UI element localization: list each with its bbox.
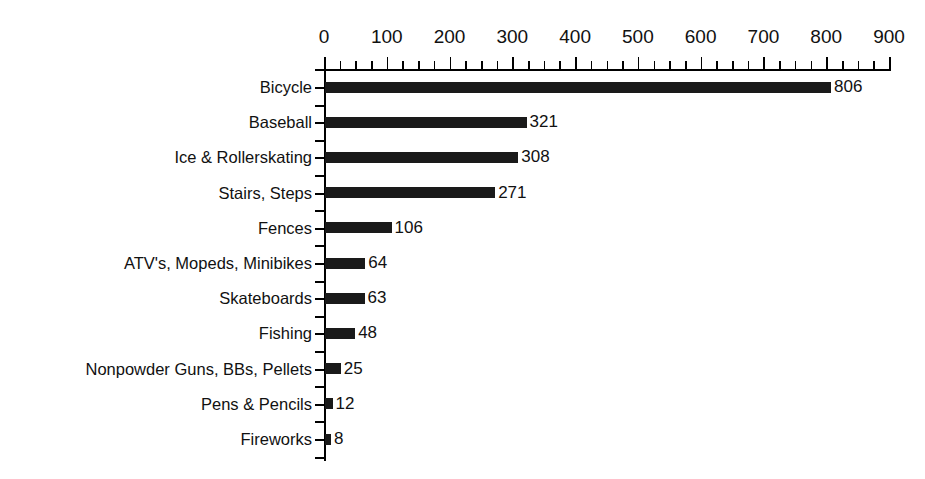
x-axis-minor-tick xyxy=(811,61,813,69)
category-label: Baseball xyxy=(249,113,312,131)
y-axis-minor-tick xyxy=(315,457,324,459)
y-axis-minor-tick xyxy=(315,351,324,353)
category-label: Ice & Rollerskating xyxy=(174,148,312,166)
x-axis-tick-label: 400 xyxy=(559,26,591,48)
category-label: Fences xyxy=(258,219,312,237)
x-axis-major-tick xyxy=(638,57,640,69)
x-axis-tick-label: 700 xyxy=(748,26,780,48)
y-axis-tick xyxy=(315,87,324,89)
y-axis-tick xyxy=(315,333,324,335)
bar xyxy=(325,258,365,269)
y-axis-minor-tick xyxy=(315,281,324,283)
y-axis-minor-tick xyxy=(315,175,324,177)
x-axis-tick-label: 900 xyxy=(873,26,905,48)
x-axis-minor-tick xyxy=(434,61,436,69)
x-axis-minor-tick xyxy=(732,61,734,69)
x-axis-minor-tick xyxy=(607,61,609,69)
y-axis-minor-tick xyxy=(315,105,324,107)
x-axis-minor-tick xyxy=(465,61,467,69)
x-axis-minor-tick xyxy=(418,61,420,69)
x-axis-minor-tick xyxy=(481,61,483,69)
x-axis-major-tick xyxy=(575,57,577,69)
x-axis-tick-label: 600 xyxy=(685,26,717,48)
category-label: Stairs, Steps xyxy=(218,184,312,202)
y-axis-tick xyxy=(315,157,324,159)
x-axis-line xyxy=(324,69,891,71)
x-axis-minor-tick xyxy=(716,61,718,69)
bar xyxy=(325,328,355,339)
y-axis-tick xyxy=(315,404,324,406)
category-label: Pens & Pencils xyxy=(201,395,312,413)
bar xyxy=(325,398,333,409)
bar-value-label: 8 xyxy=(334,430,343,448)
category-label: Fishing xyxy=(259,324,312,342)
bar-chart: 0100200300400500600700800900 Bicycle806B… xyxy=(0,0,925,479)
y-axis-minor-tick xyxy=(315,69,324,71)
x-axis-major-tick xyxy=(826,57,828,69)
x-axis-tick-label: 500 xyxy=(622,26,654,48)
y-axis-tick xyxy=(315,298,324,300)
y-axis-minor-tick xyxy=(315,210,324,212)
x-axis-minor-tick xyxy=(355,61,357,69)
y-axis-minor-tick xyxy=(315,140,324,142)
x-axis-minor-tick xyxy=(842,61,844,69)
y-axis-minor-tick xyxy=(315,386,324,388)
bar-value-label: 308 xyxy=(521,148,549,166)
bar xyxy=(325,434,331,445)
category-label: Fireworks xyxy=(240,430,312,448)
x-axis-minor-tick xyxy=(340,61,342,69)
x-axis-minor-tick xyxy=(669,61,671,69)
x-axis-major-tick xyxy=(324,57,326,69)
x-axis-major-tick xyxy=(889,57,891,69)
x-axis-minor-tick xyxy=(528,61,530,69)
y-axis-minor-tick xyxy=(315,421,324,423)
bar-value-label: 806 xyxy=(834,78,862,96)
x-axis-tick-label: 100 xyxy=(371,26,403,48)
bar-value-label: 12 xyxy=(336,395,355,413)
bar xyxy=(325,222,392,233)
x-axis-tick-label: 800 xyxy=(810,26,842,48)
bar-value-label: 106 xyxy=(395,219,423,237)
bar xyxy=(325,82,831,93)
bar-value-label: 48 xyxy=(358,324,377,342)
y-axis-tick xyxy=(315,193,324,195)
y-axis-tick xyxy=(315,122,324,124)
bar xyxy=(325,187,495,198)
x-axis-minor-tick xyxy=(795,61,797,69)
bar xyxy=(325,117,527,128)
x-axis-minor-tick xyxy=(654,61,656,69)
x-axis-tick-label: 300 xyxy=(496,26,528,48)
x-axis-minor-tick xyxy=(497,61,499,69)
category-label: ATV's, Mopeds, Minibikes xyxy=(124,254,312,272)
x-axis-minor-tick xyxy=(622,61,624,69)
x-axis-minor-tick xyxy=(591,61,593,69)
bar-value-label: 271 xyxy=(498,184,526,202)
bar xyxy=(325,293,365,304)
category-label: Nonpowder Guns, BBs, Pellets xyxy=(85,360,312,378)
y-axis-tick xyxy=(315,369,324,371)
x-axis-tick-label: 200 xyxy=(434,26,466,48)
x-axis-minor-tick xyxy=(748,61,750,69)
y-axis-minor-tick xyxy=(315,245,324,247)
x-axis-minor-tick xyxy=(858,61,860,69)
x-axis-major-tick xyxy=(450,57,452,69)
x-axis-minor-tick xyxy=(873,61,875,69)
bar xyxy=(325,152,518,163)
x-axis-minor-tick xyxy=(402,61,404,69)
x-axis-major-tick xyxy=(387,57,389,69)
x-axis-major-tick xyxy=(701,57,703,69)
bar-value-label: 25 xyxy=(344,360,363,378)
y-axis-tick xyxy=(315,263,324,265)
y-axis-tick xyxy=(315,439,324,441)
bar xyxy=(325,363,341,374)
x-axis-minor-tick xyxy=(779,61,781,69)
x-axis-major-tick xyxy=(512,57,514,69)
category-label: Skateboards xyxy=(219,289,312,307)
x-axis-minor-tick xyxy=(371,61,373,69)
x-axis-minor-tick xyxy=(685,61,687,69)
x-axis-tick-labels: 0100200300400500600700800900 xyxy=(0,26,925,52)
x-axis-major-tick xyxy=(763,57,765,69)
category-label: Bicycle xyxy=(260,78,312,96)
y-axis-minor-tick xyxy=(315,316,324,318)
bar-value-label: 321 xyxy=(530,113,558,131)
